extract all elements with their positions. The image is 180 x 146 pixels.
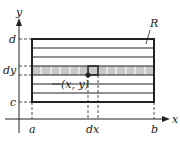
- region-label: R: [149, 17, 158, 30]
- double-integral-diagram: y x R d dy c a dx b (x, y): [0, 0, 180, 146]
- tick-label-dx: dx: [86, 123, 100, 136]
- point-label: (x, y): [61, 78, 89, 91]
- dy-strip: [32, 66, 154, 75]
- x-axis-label: x: [172, 113, 179, 126]
- y-axis-arrow-icon: [16, 18, 22, 26]
- tick-label-a: a: [29, 123, 36, 136]
- tick-label-c: c: [10, 96, 16, 109]
- y-axis-label: y: [15, 6, 23, 19]
- tick-label-b: b: [151, 123, 158, 136]
- r-leader-line: [146, 30, 150, 44]
- tick-label-d: d: [9, 33, 16, 46]
- x-axis-arrow-icon: [162, 116, 170, 122]
- tick-label-dy: dy: [3, 64, 17, 77]
